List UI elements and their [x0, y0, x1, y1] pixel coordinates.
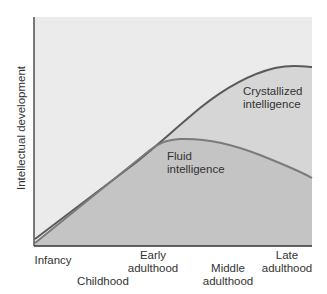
- crystallized-annotation: Crystallized intelligence: [243, 85, 302, 111]
- x-tick-late-adulthood-line-2: adulthood: [262, 262, 313, 275]
- x-tick-infancy-text: Infancy: [34, 254, 71, 267]
- x-tick-middle-adulthood: Middle adulthood: [203, 262, 254, 288]
- x-tick-late-adulthood: Late adulthood: [262, 249, 313, 275]
- x-tick-childhood-text: Childhood: [77, 275, 129, 288]
- y-axis-label: Intellectual development: [15, 66, 27, 190]
- crystallized-annotation-line-1: Crystallized: [243, 85, 302, 98]
- x-tick-early-adulthood: Early adulthood: [128, 249, 179, 275]
- x-tick-middle-adulthood-line-2: adulthood: [203, 275, 254, 288]
- x-tick-infancy: Infancy: [34, 254, 71, 267]
- fluid-annotation: Fluid intelligence: [167, 150, 225, 176]
- x-tick-middle-adulthood-line-1: Middle: [203, 262, 254, 275]
- x-tick-childhood: Childhood: [77, 275, 129, 288]
- fluid-annotation-line-1: Fluid: [167, 150, 225, 163]
- x-tick-early-adulthood-line-1: Early: [128, 249, 179, 262]
- crystallized-annotation-line-2: intelligence: [243, 98, 302, 111]
- fluid-annotation-line-2: intelligence: [167, 163, 225, 176]
- x-tick-late-adulthood-line-1: Late: [262, 249, 313, 262]
- x-tick-early-adulthood-line-2: adulthood: [128, 262, 179, 275]
